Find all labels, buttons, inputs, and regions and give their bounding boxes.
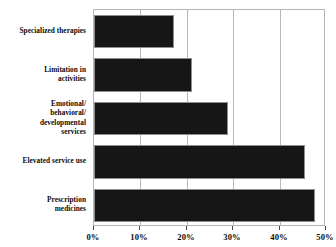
category-label: Emotional/behavioral/developmentalservic… — [0, 99, 86, 136]
category-label-column: Specialized therapiesLimitation inactivi… — [0, 9, 90, 226]
x-tick-mark — [186, 226, 187, 230]
x-tick-label: 40% — [270, 232, 288, 242]
x-tick-label: 30% — [223, 232, 241, 242]
category-label: Elevated service use — [0, 156, 86, 165]
category-label-line: Limitation in — [0, 65, 86, 74]
bar — [94, 15, 174, 49]
bar — [94, 58, 192, 92]
x-tick-label: 0% — [86, 232, 99, 242]
category-label-line: developmental — [0, 118, 86, 127]
bar — [94, 189, 315, 223]
x-tick-label: 10% — [130, 232, 148, 242]
x-tick-mark — [93, 226, 94, 230]
x-tick-mark — [232, 226, 233, 230]
category-label: Prescriptionmedicines — [0, 195, 86, 213]
plot-area — [93, 9, 325, 226]
category-label-line: medicines — [0, 204, 86, 213]
bar — [94, 102, 228, 136]
x-tick-mark — [139, 226, 140, 230]
category-label: Limitation inactivities — [0, 65, 86, 83]
category-label-line: Elevated service use — [0, 156, 86, 165]
category-label-line: services — [0, 127, 86, 136]
category-label-line: behavioral/ — [0, 108, 86, 117]
category-label-line: Prescription — [0, 195, 86, 204]
category-label-line: Specialized therapies — [0, 26, 86, 35]
x-tick-label: 20% — [177, 232, 195, 242]
x-tick-label: 50% — [316, 232, 334, 242]
category-label-line: Emotional/ — [0, 99, 86, 108]
category-label: Specialized therapies — [0, 26, 86, 35]
x-tick-mark — [279, 226, 280, 230]
horizontal-bar-chart: Specialized therapiesLimitation inactivi… — [0, 0, 336, 247]
bar — [94, 145, 305, 179]
x-axis: 0%10%20%30%40%50% — [93, 226, 325, 247]
category-label-line: activities — [0, 74, 86, 83]
x-tick-mark — [325, 226, 326, 230]
